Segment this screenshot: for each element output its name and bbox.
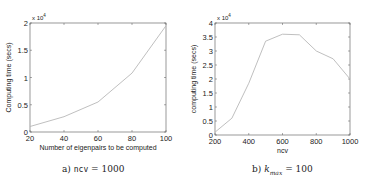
x-tick-label: 400 [242, 137, 255, 146]
y-exponent-label: x 104 [32, 13, 46, 21]
y-tick-label: 0.5 [203, 117, 213, 126]
chart-a-plot: 2040608010000.511.52x 104Number of eigen… [0, 0, 185, 160]
y-tick-label: 0 [209, 131, 213, 140]
caption-a: a) ncv = 1000 [62, 164, 124, 174]
y-exponent-label: x 104 [217, 13, 231, 21]
data-line [215, 34, 350, 132]
y-tick-label: 2 [209, 75, 213, 84]
x-tick-label: 60 [94, 134, 102, 143]
y-tick-label: 3 [209, 47, 213, 56]
caption-a-eq: = 1000 [91, 164, 124, 174]
y-tick-label: 1 [209, 103, 213, 112]
x-tick-label: 600 [276, 137, 289, 146]
caption-b-sub: max [270, 169, 283, 176]
caption-b-prefix: b) [252, 164, 261, 174]
y-axis-label: Computing time (secs) [5, 42, 13, 112]
y-tick-label: 1.5 [203, 89, 213, 98]
x-axis-label: Number of eigenpairs to be computed [39, 144, 156, 152]
plot-frame [215, 23, 350, 135]
caption-b: b) kmax = 100 [252, 164, 313, 176]
y-tick-label: 4 [209, 19, 213, 28]
plot-frame [30, 23, 166, 132]
y-tick-label: 2 [24, 19, 28, 28]
chart-panel-b: 200400600800100000.511.522.533.54x 104nc… [185, 0, 369, 192]
y-tick-label: 1 [24, 74, 28, 83]
y-tick-label: 0 [24, 128, 28, 137]
caption-a-prefix: a) [62, 164, 71, 174]
x-tick-label: 40 [60, 134, 68, 143]
chart-b-plot: 200400600800100000.511.522.533.54x 104nc… [185, 0, 369, 160]
chart-panel-a: 2040608010000.511.52x 104Number of eigen… [0, 0, 185, 192]
caption-b-eq: = 100 [285, 164, 313, 174]
y-tick-label: 2.5 [203, 61, 213, 70]
y-tick-label: 0.5 [18, 101, 28, 110]
x-tick-label: 1000 [342, 137, 359, 146]
y-tick-label: 1.5 [18, 46, 28, 55]
x-tick-label: 100 [160, 134, 173, 143]
caption-a-var: ncv [74, 165, 88, 174]
data-line [30, 26, 166, 127]
x-axis-label: ncv [277, 147, 288, 154]
x-tick-label: 800 [310, 137, 323, 146]
x-tick-label: 80 [128, 134, 136, 143]
y-axis-label: computing time (secs) [190, 45, 198, 113]
y-tick-label: 3.5 [203, 33, 213, 42]
